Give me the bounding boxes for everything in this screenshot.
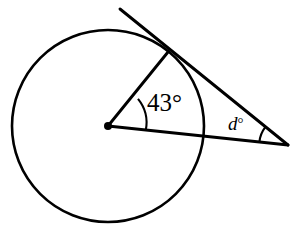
geometry-canvas: [0, 0, 306, 234]
geometry-figure: 43° d°: [0, 0, 306, 234]
vertex-angle-variable: d: [228, 113, 238, 134]
center-point-dot: [104, 122, 112, 130]
vertex-angle-label: d°: [228, 114, 244, 133]
vertex-angle-degree-symbol: °: [238, 115, 244, 131]
center-angle-arc: [138, 99, 146, 130]
center-angle-label: 43°: [147, 90, 182, 115]
vertex-angle-arc: [259, 127, 265, 142]
